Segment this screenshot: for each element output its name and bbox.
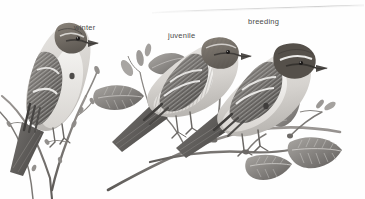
bird-winter-figure — [10, 23, 99, 176]
scan-artifact-line — [152, 5, 364, 13]
label-winter: winter — [74, 24, 96, 32]
leaf-right-lower-large — [288, 137, 342, 168]
catkin-sprig-right — [300, 98, 337, 112]
label-juvenile: juvenile — [168, 32, 195, 40]
illustration-plate: winter juvenile breeding — [0, 0, 365, 199]
leaf-bottom-center — [245, 155, 292, 180]
label-breeding: breeding — [248, 18, 279, 26]
leaf-left-large — [93, 85, 144, 110]
plate-artwork — [0, 0, 365, 199]
